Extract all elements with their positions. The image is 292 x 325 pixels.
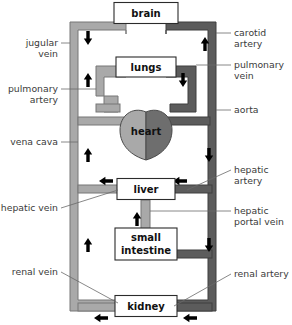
flow-arrow-renal-vein-left [94,314,108,322]
pulmonary-artery-stub [96,104,120,112]
renal-vein-vessel [78,303,118,311]
callout-jugular-vein: jugularvein [25,37,59,59]
callout-text-aorta-line0: aorta [234,104,259,115]
organ-label-heart: heart [131,126,162,137]
callout-text-hepatic-artery-line1: artery [234,175,263,186]
organ-label-kidney: kidney [127,301,165,312]
callout-text-hepatic-portal-vein-line0: hepatic [234,205,269,216]
organ-label-small-intestine-line1: intestine [121,245,171,256]
flow-arrow-vena-cava-lower-up [84,238,92,252]
callout-text-hepatic-portal-vein-line1: portal vein [234,216,284,227]
callout-hepatic-portal-vein: hepaticportal vein [234,205,284,227]
flow-arrow-pulmonary-artery-up [84,73,92,87]
callout-text-carotid-artery-line1: artery [234,38,263,49]
flow-arrow-jugular-down [84,31,92,45]
organ-kidney[interactable]: kidney [115,296,177,317]
organ-lungs[interactable]: lungs [116,57,176,77]
circulatory-diagram-figure: brainlungsheartliversmallintestinekidney… [0,0,292,325]
callout-text-hepatic-artery-line0: hepatic [234,164,269,175]
callout-hepatic-vein: hepatic vein [1,202,58,213]
organ-brain[interactable]: brain [114,3,178,24]
callout-text-renal-artery-line0: renal artery [234,268,289,279]
callout-text-carotid-artery-line0: carotid [234,27,266,38]
callout-vena-cava: vena cava [10,136,58,147]
callout-text-hepatic-vein-line0: hepatic vein [1,202,58,213]
callout-renal-artery: renal artery [234,268,289,279]
callout-text-jugular-vein-line0: jugular [25,37,59,48]
callout-text-pulmonary-vein-line1: vein [234,70,254,81]
organ-liver[interactable]: liver [117,179,175,200]
callout-text-renal-vein-line0: renal vein [12,266,58,277]
callout-aorta: aorta [234,104,259,115]
organ-small-intestine[interactable]: smallintestine [115,228,177,260]
callout-renal-vein: renal vein [12,266,58,277]
organ-label-liver: liver [133,184,158,195]
callout-pulmonary-artery: pulmonaryartery [8,83,59,105]
organ-label-small-intestine-line0: small [131,232,161,243]
callout-text-jugular-vein-line1: vein [38,48,58,59]
flow-arrow-hepatic-vein-left [99,177,113,185]
callout-text-pulmonary-vein-line0: pulmonary [234,59,285,70]
flow-arrow-vena-cava-up [84,148,92,162]
diagram-canvas: brainlungsheartliversmallintestinekidney… [0,0,292,325]
organ-label-lungs: lungs [131,62,162,73]
renal-artery-vessel [174,303,212,311]
callout-hepatic-artery: hepaticartery [234,164,269,186]
organ-label-brain: brain [131,8,160,19]
callout-text-pulmonary-artery-line0: pulmonary [8,83,59,94]
callout-carotid-artery: carotidartery [234,27,266,49]
mesenteric-artery-vessel [176,250,212,258]
callout-pulmonary-vein: pulmonaryvein [234,59,285,81]
flow-arrow-portal-vein-up [133,212,141,226]
hepatic-artery-vessel [172,185,212,193]
flow-arrow-renal-artery-left [183,314,197,322]
callout-text-vena-cava-line0: vena cava [10,136,58,147]
callout-text-pulmonary-artery-line1: artery [30,94,59,105]
